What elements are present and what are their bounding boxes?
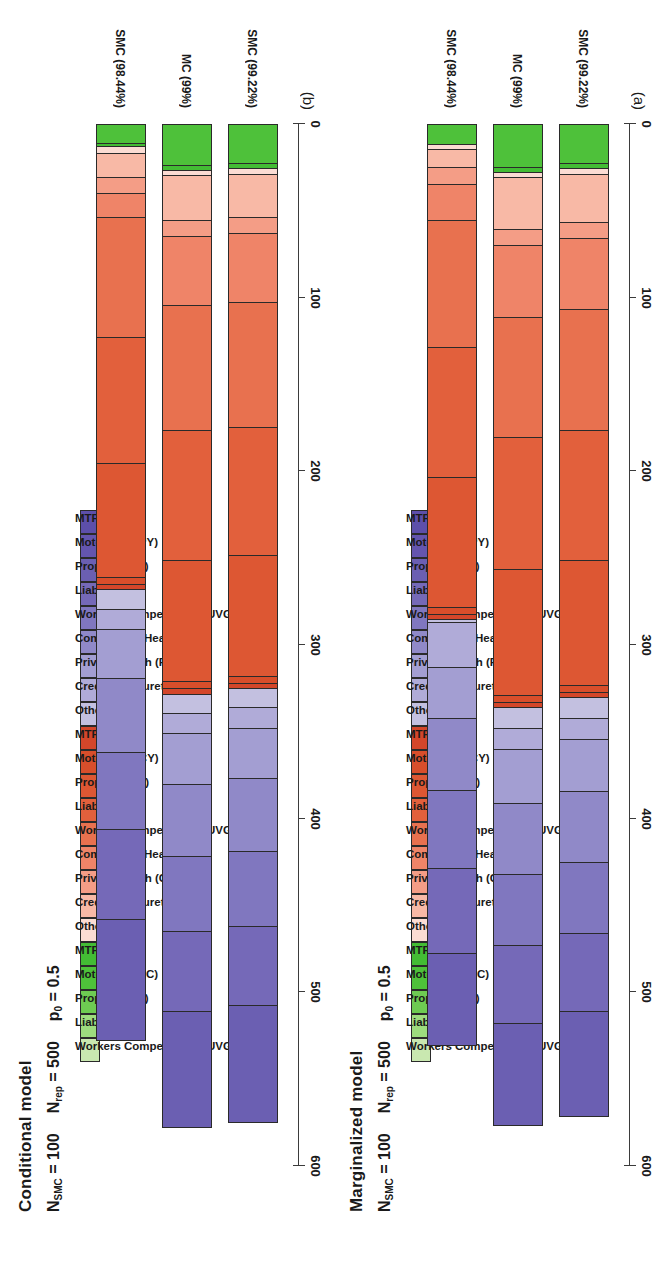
bar-segment[interactable]: [163, 856, 211, 931]
bar-segment[interactable]: [560, 560, 608, 685]
bar-segment[interactable]: [229, 125, 277, 163]
bar-segment[interactable]: [97, 463, 145, 577]
stacked-bar[interactable]: [427, 124, 477, 1046]
bar-segment[interactable]: [428, 614, 476, 619]
bar-segment[interactable]: [560, 739, 608, 791]
bar-segment[interactable]: [428, 220, 476, 346]
bar-segment[interactable]: [229, 168, 277, 173]
bar-segment[interactable]: [560, 933, 608, 1011]
bar-segment[interactable]: [97, 609, 145, 630]
bar-segment[interactable]: [560, 163, 608, 168]
bar-segment[interactable]: [229, 174, 277, 217]
bar-segment[interactable]: [97, 177, 145, 193]
bar-segment[interactable]: [428, 477, 476, 607]
bar-segment[interactable]: [560, 685, 608, 692]
bar-segment[interactable]: [494, 803, 542, 874]
bar-segment[interactable]: [97, 337, 145, 463]
bar-segment[interactable]: [97, 153, 145, 177]
bar-segment[interactable]: [428, 167, 476, 184]
bar-segment[interactable]: [494, 749, 542, 803]
bar-segment[interactable]: [229, 555, 277, 676]
bar-segment[interactable]: [163, 236, 211, 305]
bar-segment[interactable]: [494, 945, 542, 1023]
bar-segment[interactable]: [97, 629, 145, 678]
bar-segment[interactable]: [97, 584, 145, 589]
bar-segment[interactable]: [229, 302, 277, 427]
bar-segment[interactable]: [163, 733, 211, 783]
bar-segment[interactable]: [163, 430, 211, 560]
stacked-bar[interactable]: [559, 124, 609, 1117]
bar-segment[interactable]: [428, 718, 476, 791]
bar-segment[interactable]: [229, 851, 277, 926]
bar-segment[interactable]: [163, 931, 211, 1011]
bar-segment[interactable]: [163, 560, 211, 681]
bar-segment[interactable]: [229, 926, 277, 1006]
bar-segment[interactable]: [428, 347, 476, 477]
bar-segment[interactable]: [428, 790, 476, 868]
bar-segment[interactable]: [163, 688, 211, 693]
bar-segment[interactable]: [428, 607, 476, 614]
bar-segment[interactable]: [494, 695, 542, 702]
bar-segment[interactable]: [560, 718, 608, 739]
bar-segment[interactable]: [560, 791, 608, 862]
stacked-bar[interactable]: [162, 124, 212, 1128]
bar-segment[interactable]: [163, 1011, 211, 1127]
stacked-bar[interactable]: [493, 124, 543, 1126]
bar-segment[interactable]: [163, 784, 211, 857]
bar-segment[interactable]: [163, 175, 211, 220]
bar-segment[interactable]: [560, 309, 608, 430]
bar-segment[interactable]: [163, 681, 211, 688]
bar-segment[interactable]: [560, 1011, 608, 1117]
bar-segment[interactable]: [229, 163, 277, 168]
bar-segment[interactable]: [229, 688, 277, 707]
bar-segment[interactable]: [428, 868, 476, 953]
bar-segment[interactable]: [97, 143, 145, 146]
bar-segment[interactable]: [560, 692, 608, 697]
bar-segment[interactable]: [97, 752, 145, 828]
bar-segment[interactable]: [97, 146, 145, 153]
bar-segment[interactable]: [560, 238, 608, 309]
bar-segment[interactable]: [163, 125, 211, 165]
bar-segment[interactable]: [494, 177, 542, 229]
bar-segment[interactable]: [229, 233, 277, 302]
bar-segment[interactable]: [494, 707, 542, 728]
bar-segment[interactable]: [97, 577, 145, 584]
bar-segment[interactable]: [229, 707, 277, 728]
bar-segment[interactable]: [428, 184, 476, 220]
bar-segment[interactable]: [428, 149, 476, 166]
bar-segment[interactable]: [428, 125, 476, 144]
bar-segment[interactable]: [229, 728, 277, 778]
bar-segment[interactable]: [428, 622, 476, 667]
bar-segment[interactable]: [97, 125, 145, 142]
bar-segment[interactable]: [560, 430, 608, 560]
bar-segment[interactable]: [560, 222, 608, 238]
stacked-bar[interactable]: [96, 124, 146, 1041]
bar-segment[interactable]: [229, 427, 277, 555]
bar-segment[interactable]: [163, 220, 211, 236]
bar-segment[interactable]: [494, 702, 542, 707]
bar-segment[interactable]: [494, 874, 542, 945]
bar-segment[interactable]: [560, 697, 608, 718]
bar-segment[interactable]: [560, 168, 608, 173]
bar-segment[interactable]: [163, 694, 211, 713]
bar-segment[interactable]: [494, 437, 542, 569]
bar-segment[interactable]: [163, 305, 211, 430]
bar-segment[interactable]: [494, 318, 542, 438]
bar-segment[interactable]: [494, 125, 542, 167]
bar-segment[interactable]: [229, 676, 277, 683]
bar-segment[interactable]: [97, 590, 145, 609]
bar-segment[interactable]: [494, 1023, 542, 1125]
bar-segment[interactable]: [97, 193, 145, 217]
bar-segment[interactable]: [97, 678, 145, 753]
bar-segment[interactable]: [97, 829, 145, 919]
bar-segment[interactable]: [97, 217, 145, 337]
bar-segment[interactable]: [494, 569, 542, 696]
bar-segment[interactable]: [229, 683, 277, 688]
bar-segment[interactable]: [494, 167, 542, 172]
bar-segment[interactable]: [229, 217, 277, 233]
stacked-bar[interactable]: [228, 124, 278, 1123]
bar-segment[interactable]: [229, 778, 277, 851]
bar-segment[interactable]: [494, 172, 542, 177]
bar-segment[interactable]: [428, 144, 476, 149]
bar-segment[interactable]: [494, 229, 542, 245]
